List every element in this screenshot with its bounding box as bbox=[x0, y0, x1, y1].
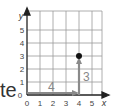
rise-arrow bbox=[76, 57, 82, 95]
svg-text:5: 5 bbox=[20, 26, 25, 35]
x-axis-label: x bbox=[101, 98, 107, 108]
axes bbox=[24, 8, 109, 98]
y-axis-label: y bbox=[18, 11, 24, 21]
svg-text:2: 2 bbox=[20, 65, 25, 74]
svg-text:4: 4 bbox=[77, 99, 82, 108]
svg-text:1: 1 bbox=[38, 99, 43, 108]
data-point bbox=[76, 53, 82, 59]
run-label: 4 bbox=[48, 80, 55, 94]
svg-text:0: 0 bbox=[25, 99, 30, 108]
coordinate-grid: 4 3 0 1 2 3 4 5 x 0 1 2 3 4 5 y bbox=[0, 0, 114, 112]
svg-text:4: 4 bbox=[20, 39, 25, 48]
x-tick-labels: 0 1 2 3 4 5 x bbox=[25, 98, 107, 108]
y-tick-labels: 0 1 2 3 4 5 y bbox=[18, 11, 25, 100]
svg-text:3: 3 bbox=[20, 52, 25, 61]
svg-text:3: 3 bbox=[64, 99, 69, 108]
svg-text:5: 5 bbox=[90, 99, 95, 108]
grid-lines bbox=[27, 11, 102, 95]
y-axis-arrowhead bbox=[24, 8, 30, 15]
svg-text:2: 2 bbox=[51, 99, 56, 108]
svg-text:0: 0 bbox=[18, 91, 23, 100]
svg-text:1: 1 bbox=[20, 78, 25, 87]
rise-label: 3 bbox=[83, 70, 90, 84]
